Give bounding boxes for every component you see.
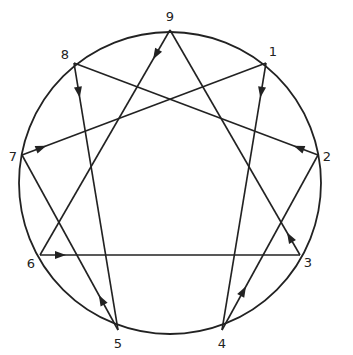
point-label-7: 7 bbox=[9, 149, 17, 164]
arrowhead-icon bbox=[35, 146, 47, 154]
arrowhead-icon bbox=[294, 146, 306, 154]
label-group: 912345678 bbox=[9, 9, 331, 351]
point-label-3: 3 bbox=[304, 255, 312, 270]
edge-group bbox=[22, 30, 318, 330]
point-label-6: 6 bbox=[27, 256, 35, 271]
point-label-2: 2 bbox=[323, 149, 331, 164]
point-label-1: 1 bbox=[269, 44, 277, 59]
arrowhead-icon bbox=[55, 251, 66, 259]
edge-9-to-6 bbox=[40, 30, 170, 255]
arrowhead-icon bbox=[237, 286, 246, 298]
point-label-5: 5 bbox=[114, 336, 122, 351]
arrowhead-icon bbox=[287, 233, 296, 245]
enneagram-canvas: 912345678 bbox=[0, 0, 353, 355]
edge-7-to-1 bbox=[22, 63, 266, 155]
arrowhead-icon bbox=[258, 86, 266, 98]
point-label-4: 4 bbox=[218, 336, 226, 351]
point-label-8: 8 bbox=[61, 47, 69, 62]
point-label-9: 9 bbox=[166, 9, 174, 24]
arrowhead-icon bbox=[74, 86, 82, 98]
edge-2-to-8 bbox=[74, 63, 318, 155]
edge-3-to-9 bbox=[170, 30, 300, 255]
outer-circle bbox=[19, 32, 321, 334]
arrowhead-icon bbox=[153, 48, 162, 60]
arrowhead-icon bbox=[99, 295, 108, 307]
